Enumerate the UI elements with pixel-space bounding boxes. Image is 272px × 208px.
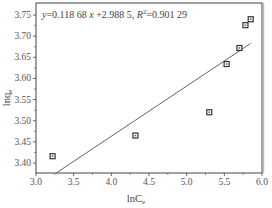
x-tick-label: 4.0 [105,177,117,187]
x-axis-label: lnCe [127,193,145,206]
y-tick-label: 3.40 [14,158,31,168]
scatter-chart: 3.03.54.04.55.05.56.0 3.403.453.503.553.… [0,0,272,208]
y-tick-label: 3.65 [14,52,31,62]
x-tick-label: 6.0 [256,177,268,187]
fit-line [56,43,250,172]
regression-equation: y=0.118 68 x +2.988 5, R2=0.901 29 [41,8,187,20]
y-tick-label: 3.70 [14,31,31,41]
x-tick-label: 4.5 [143,177,155,187]
x-tick-label: 3.5 [68,177,80,187]
data-points [50,17,253,159]
x-axis: 3.03.54.04.55.05.56.0 [30,173,268,187]
y-axis-label: lnqe [1,90,14,107]
x-tick-label: 5.0 [181,177,193,187]
y-tick-label: 3.60 [14,73,31,83]
y-axis: 3.403.453.503.553.603.653.703.75 [14,10,36,168]
plot-frame [36,3,264,173]
y-tick-label: 3.45 [14,137,31,147]
y-tick-label: 3.55 [14,95,31,105]
y-tick-label: 3.50 [14,116,31,126]
x-tick-label: 5.5 [218,177,230,187]
x-tick-label: 3.0 [30,177,42,187]
y-tick-label: 3.75 [14,10,31,20]
